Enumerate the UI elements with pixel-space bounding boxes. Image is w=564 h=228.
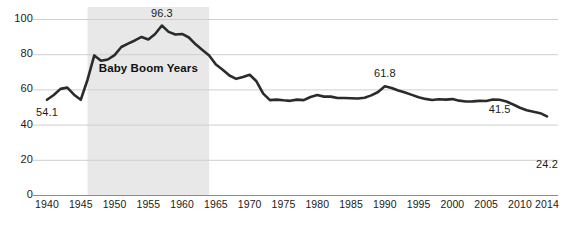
chart-canvas: [0, 0, 564, 228]
x-tick-label-1965: 1965: [204, 199, 228, 210]
x-tick-label-1980: 1980: [305, 199, 329, 210]
x-tick-label-1990: 1990: [373, 199, 397, 210]
annotation-24-2: 24.2: [536, 159, 558, 170]
y-tick-label-20: 20: [5, 154, 33, 165]
annotation-41-5: 41.5: [489, 104, 511, 115]
x-tick-label-1940: 1940: [35, 199, 59, 210]
plot-area: [0, 0, 564, 228]
x-tick-label-1970: 1970: [238, 199, 262, 210]
band-label-text: Baby Boom Years: [99, 62, 198, 74]
x-tick-label-1955: 1955: [136, 199, 160, 210]
annotation-96-3: 96.3: [151, 8, 173, 19]
y-tick-label-0: 0: [5, 189, 33, 200]
y-axis-ticks: 020406080100: [0, 0, 33, 228]
y-tick-label-80: 80: [5, 48, 33, 59]
x-tick-label-1950: 1950: [103, 199, 127, 210]
x-tick-label-2005: 2005: [474, 199, 498, 210]
x-tick-label-1995: 1995: [407, 199, 431, 210]
x-tick-label-1960: 1960: [170, 199, 194, 210]
y-tick-label-100: 100: [5, 13, 33, 24]
annotation-54-1: 54.1: [36, 107, 58, 118]
y-tick-label-40: 40: [5, 119, 33, 130]
x-tick-label-1945: 1945: [69, 199, 93, 210]
x-tick-label-2010: 2010: [508, 199, 532, 210]
x-tick-label-1985: 1985: [339, 199, 363, 210]
x-tick-label-1975: 1975: [272, 199, 296, 210]
birth-rate-line-chart: 020406080100 194019451950195519601965197…: [0, 0, 564, 228]
x-tick-label-2014: 2014: [535, 199, 559, 210]
baby-boom-shaded-band: [88, 7, 210, 195]
annotation-61-8: 61.8: [374, 68, 396, 79]
y-tick-label-60: 60: [5, 83, 33, 94]
x-tick-label-2000: 2000: [441, 199, 465, 210]
